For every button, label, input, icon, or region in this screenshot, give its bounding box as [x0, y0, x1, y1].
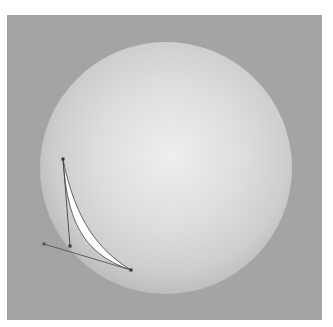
- handle-point-left[interactable]: [43, 243, 46, 246]
- handle-point-inner[interactable]: [69, 245, 72, 248]
- sphere-shape[interactable]: [40, 42, 292, 294]
- canvas-svg: [7, 15, 322, 320]
- anchor-point-top[interactable]: [62, 158, 65, 161]
- drawing-canvas[interactable]: [7, 15, 322, 320]
- anchor-point-bottom[interactable]: [130, 269, 133, 272]
